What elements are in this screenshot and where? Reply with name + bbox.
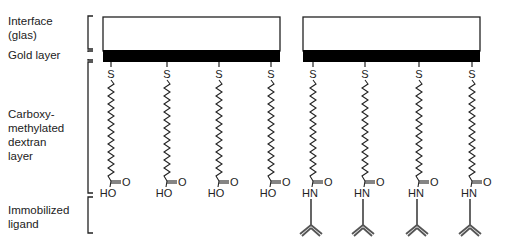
sulfur-atom: S (107, 68, 114, 80)
carbonyl-oxygen: O (178, 176, 187, 188)
carbonyl-oxygen: O (430, 176, 439, 188)
dextran-chain: SOHN (459, 62, 492, 236)
dextran-chain: SOHO (208, 62, 239, 199)
sulfur-atom: S (163, 68, 170, 80)
bracket-dextran (88, 62, 93, 193)
alkyl-chain (416, 80, 422, 181)
hydroxyl-group: HO (156, 187, 173, 199)
layer-brackets (88, 16, 93, 233)
alkyl-chain (268, 80, 274, 181)
sulfur-atom: S (267, 68, 274, 80)
dextran-chain: SOHO (156, 62, 187, 199)
amide-nh-group: HN (461, 187, 477, 199)
bracket-ligand (88, 197, 93, 233)
amide-nh-group: HN (354, 187, 370, 199)
dextran-chain: SOHO (260, 62, 291, 199)
amide-nh-group: HN (408, 187, 424, 199)
surface-left (103, 17, 280, 62)
alkyl-chain (310, 80, 316, 181)
hydroxyl-group: HO (208, 187, 225, 199)
carbonyl-oxygen: O (483, 176, 492, 188)
immobilized-ligand-icon (459, 199, 481, 236)
dextran-chain: SOHO (100, 62, 131, 199)
interface-glass-left (103, 17, 280, 51)
dextran-chain: SOHN (300, 62, 333, 236)
sulfur-atom: S (361, 68, 368, 80)
amide-nh-group: HN (302, 187, 318, 199)
alkyl-chain (164, 80, 170, 181)
bracket-gold (88, 51, 93, 60)
gold-layer-right (303, 50, 480, 62)
carbonyl-oxygen: O (122, 176, 131, 188)
carbonyl-oxygen: O (282, 176, 291, 188)
hydroxyl-group: HO (100, 187, 117, 199)
bracket-interface (88, 16, 93, 49)
dextran-chain: SOHN (352, 62, 385, 236)
alkyl-chain (108, 80, 114, 181)
interface-glass-right (303, 17, 480, 51)
surface-right (303, 17, 480, 62)
hydroxyl-group: HO (260, 187, 277, 199)
immobilized-ligand-icon (406, 199, 428, 236)
sulfur-atom: S (309, 68, 316, 80)
immobilized-ligand-icon (352, 199, 374, 236)
carbonyl-oxygen: O (230, 176, 239, 188)
sulfur-atom: S (215, 68, 222, 80)
immobilized-ligand-icon (300, 199, 322, 236)
sulfur-atom: S (415, 68, 422, 80)
carbonyl-oxygen: O (324, 176, 333, 188)
sensor-surface-diagram: SOHOSOHOSOHOSOHOSOHNSOHNSOHNSOHN (0, 0, 509, 244)
carbonyl-oxygen: O (376, 176, 385, 188)
sulfur-atom: S (468, 68, 475, 80)
alkyl-chain (216, 80, 222, 181)
alkyl-chain (362, 80, 368, 181)
alkyl-chain (469, 80, 475, 181)
gold-layer-left (103, 50, 280, 62)
dextran-chain: SOHN (406, 62, 439, 236)
